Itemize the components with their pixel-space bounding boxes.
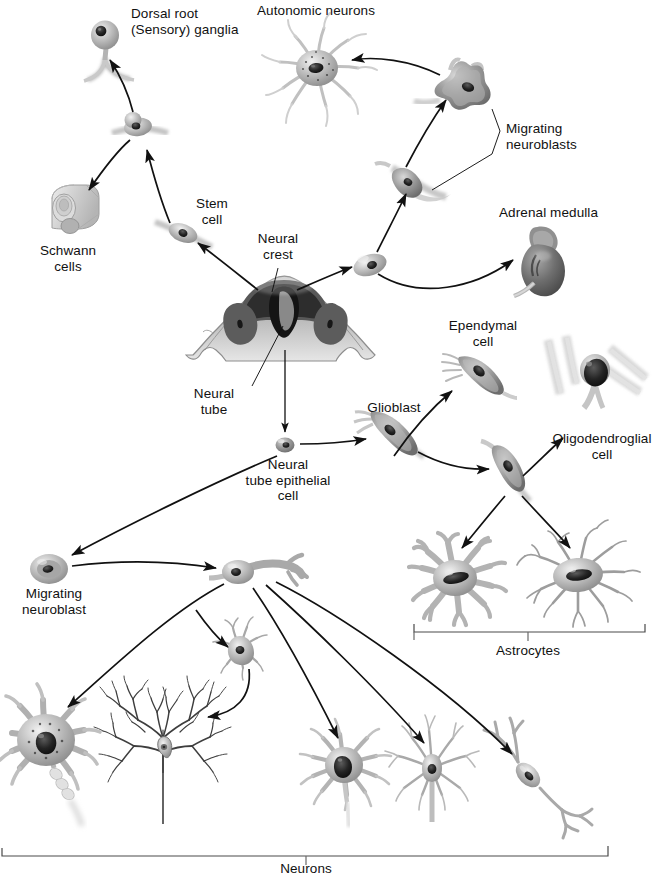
label-glioblast: Glioblast bbox=[354, 400, 434, 416]
autonomic-neuron bbox=[262, 13, 377, 126]
stem-cell-precursor bbox=[112, 112, 168, 138]
arrow-migrating-to-bipolar bbox=[72, 562, 216, 568]
arrow-precursor-to-schwann bbox=[89, 140, 130, 190]
label-neural-tube: Neural tube bbox=[179, 386, 249, 417]
arrow-ovalcell-to-neuroblast bbox=[377, 194, 406, 252]
pyramidal-neuron bbox=[385, 715, 479, 848]
protoplasmic-astrocyte bbox=[409, 533, 506, 625]
astrocytes-bracket bbox=[414, 624, 645, 632]
label-neural-tube-epithelial-cell: Neural tube epithelial cell bbox=[236, 457, 340, 504]
bipolar-neuroblast bbox=[209, 555, 307, 585]
label-ependymal-cell: Ependymal cell bbox=[441, 318, 525, 349]
label-migrating-neuroblasts: Migrating neuroblasts bbox=[506, 121, 577, 152]
arrow-glioblast2-to-astrocyte2 bbox=[522, 496, 570, 548]
neural-tube-epithelial-cell bbox=[276, 438, 295, 453]
arrow-neuroblast-to-autonomic bbox=[406, 100, 446, 167]
arrow-small-multipolar-to-purkinje bbox=[208, 669, 249, 717]
arrow-precursor-to-ganglion bbox=[110, 60, 133, 112]
schwann-cell bbox=[52, 185, 99, 234]
bracket-layer bbox=[2, 624, 645, 865]
glioblast-secondary bbox=[481, 441, 530, 501]
neural-tube-section bbox=[186, 276, 375, 361]
ependymal-cell bbox=[442, 354, 517, 398]
label-astrocytes: Astrocytes bbox=[478, 643, 578, 659]
label-neural-crest: Neural crest bbox=[243, 231, 313, 262]
migrating-neuroblast bbox=[30, 554, 68, 584]
large-motor-neuron bbox=[0, 684, 100, 826]
adrenal-medulla bbox=[514, 226, 565, 296]
purkinje-cell bbox=[94, 676, 231, 824]
label-neurons: Neurons bbox=[260, 861, 352, 877]
glioblast bbox=[354, 412, 424, 457]
label-dorsal-root-ganglia: Dorsal root (Sensory) ganglia bbox=[131, 6, 239, 37]
arrow-stemcell-to-precursor bbox=[147, 150, 170, 223]
label-migrating-neuroblast: Migrating neuroblast bbox=[2, 586, 106, 617]
bipolar-neuron bbox=[484, 718, 592, 838]
label-adrenal-medulla: Adrenal medulla bbox=[499, 205, 598, 221]
leader-migrating-neuroblasts bbox=[432, 109, 500, 190]
arrow-epithelial-to-glioblast bbox=[300, 439, 366, 444]
fibrous-astrocyte bbox=[517, 520, 640, 627]
label-oligodendroglial-cell: Oligodendroglial cell bbox=[546, 431, 658, 462]
arrow-glioblast-to-glioblast2 bbox=[418, 452, 489, 469]
crest-derived-cell bbox=[351, 250, 390, 280]
oligodendroglial-cell bbox=[548, 336, 646, 408]
arrow-bipolar-to-pyramidal bbox=[266, 585, 424, 743]
migrating-neuroblast-lower bbox=[375, 163, 452, 202]
label-schwann-cells: Schwann cells bbox=[18, 243, 118, 274]
dorsal-root-ganglion-cell bbox=[84, 21, 134, 82]
label-autonomic-neurons: Autonomic neurons bbox=[236, 3, 396, 19]
migrating-neuroblast-upper bbox=[414, 59, 491, 109]
arrow-ovalcell-to-adrenal bbox=[378, 260, 513, 288]
figure-canvas: Dorsal root (Sensory) ganglia Autonomic … bbox=[0, 0, 659, 886]
stellate-neuron bbox=[300, 719, 391, 827]
arrow-crest-to-ovalcell bbox=[297, 267, 352, 290]
neurons-bracket bbox=[2, 846, 608, 856]
small-multipolar-neuron bbox=[213, 617, 267, 680]
label-stem-cell: Stem cell bbox=[178, 196, 246, 227]
